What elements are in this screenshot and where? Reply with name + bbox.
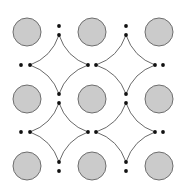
black-dot — [124, 33, 128, 37]
black-dot — [57, 24, 61, 28]
black-dot — [124, 101, 128, 105]
black-dot — [124, 24, 128, 28]
black-dot — [57, 33, 61, 37]
black-dot — [94, 130, 98, 134]
gray-circle — [78, 18, 106, 46]
gray-circle — [13, 85, 41, 113]
black-dot — [124, 160, 128, 164]
black-dot — [19, 130, 23, 134]
black-dot — [161, 130, 165, 134]
black-dot — [124, 169, 128, 173]
black-dot — [57, 160, 61, 164]
gray-circle — [145, 85, 173, 113]
gray-circle — [145, 18, 173, 46]
gray-circle — [145, 152, 173, 180]
black-dot — [28, 63, 32, 67]
circles-group — [13, 18, 173, 180]
gray-circle — [78, 152, 106, 180]
black-dot — [161, 63, 165, 67]
black-dot — [124, 92, 128, 96]
gray-circle — [13, 18, 41, 46]
black-dot — [153, 63, 157, 67]
black-dot — [19, 63, 23, 67]
black-dot — [86, 63, 90, 67]
black-dot — [153, 130, 157, 134]
black-dot — [28, 130, 32, 134]
black-dot — [57, 169, 61, 173]
black-dot — [57, 92, 61, 96]
black-dot — [86, 130, 90, 134]
gray-circle — [13, 152, 41, 180]
gray-circle — [78, 85, 106, 113]
black-dot — [57, 101, 61, 105]
black-dot — [94, 63, 98, 67]
lattice-diagram — [0, 0, 181, 189]
